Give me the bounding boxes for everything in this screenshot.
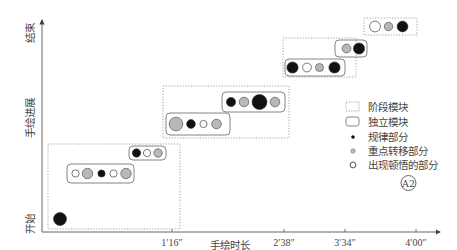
legend: 阶段模块 独立模块 规律部分 重点转移部分 出现顿悟的部分 xyxy=(346,101,439,171)
regular-dot xyxy=(252,95,267,110)
y-label-end: 结束 xyxy=(24,22,36,43)
shift-dot xyxy=(270,97,280,107)
x-tick-2: 2′38″ xyxy=(273,237,294,248)
legend-regular-label: 规律部分 xyxy=(368,131,409,143)
insight-dot xyxy=(303,63,312,72)
legend-stage-label: 阶段模块 xyxy=(368,101,409,113)
shift-dot xyxy=(239,97,249,107)
x-tick-1: 1′16″ xyxy=(161,237,182,248)
stage-module-1 xyxy=(48,144,180,229)
x-tick-3: 3′34″ xyxy=(334,237,355,248)
legend-regular-icon xyxy=(351,135,355,139)
shift-dot xyxy=(82,168,92,178)
y-label-middle: 手绘进展 xyxy=(24,97,36,138)
shift-dot xyxy=(316,64,324,72)
shift-dot xyxy=(121,168,131,178)
regular-dot xyxy=(397,21,408,32)
legend-shift-label: 重点转移部分 xyxy=(368,145,429,157)
x-tick-4: 4′00″ xyxy=(405,237,426,248)
legend-module-icon xyxy=(346,117,359,126)
regular-dot xyxy=(132,149,140,157)
regular-dot xyxy=(287,62,298,73)
regular-dot xyxy=(187,120,196,129)
stage-module-2 xyxy=(163,86,289,138)
shift-dot xyxy=(384,22,392,30)
shift-dot xyxy=(342,44,351,53)
shift-dot xyxy=(169,117,183,131)
insight-dot xyxy=(110,170,117,177)
figure-label-text: A2 xyxy=(401,178,415,189)
stage-module-3 xyxy=(283,38,367,77)
legend-module-label: 独立模块 xyxy=(368,116,409,128)
shift-dot xyxy=(212,119,222,129)
regular-dot xyxy=(329,62,340,73)
regular-dot xyxy=(98,170,105,177)
insight-dot xyxy=(200,120,207,127)
regular-dot xyxy=(353,43,364,54)
legend-stage-icon xyxy=(346,102,359,111)
x-axis-title: 手绘时长 xyxy=(210,239,251,250)
insight-dot xyxy=(370,21,381,32)
stage-module-4 xyxy=(364,18,417,35)
stage-progress-diagram: 开始 手绘进展 结束 1′16″ 2′38″ 3′34″ 4′00″ 手绘时长 xyxy=(0,0,457,250)
insight-dot xyxy=(72,170,79,177)
shift-dot xyxy=(154,149,162,157)
figure-label: A2 xyxy=(401,176,416,191)
regular-dot xyxy=(54,213,67,226)
legend-shift-icon xyxy=(351,149,356,154)
insight-dot xyxy=(143,149,150,156)
legend-insight-icon xyxy=(350,162,356,168)
regular-dot xyxy=(226,97,235,106)
legend-insight-label: 出现顿悟的部分 xyxy=(368,159,439,171)
y-label-start: 开始 xyxy=(24,213,36,234)
